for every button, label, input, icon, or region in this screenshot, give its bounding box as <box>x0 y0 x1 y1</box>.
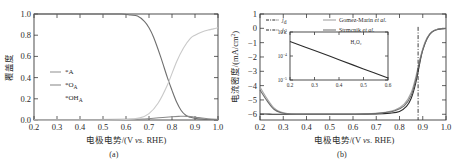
svg-text:0.8: 0.8 <box>167 122 178 132</box>
panel-b-caption: (b) <box>228 150 456 159</box>
svg-text:jd: jd <box>281 17 287 25</box>
svg-text:0.5: 0.5 <box>360 82 367 88</box>
panel-b-svg: 10−1−2−3−4−5−6 0.20.30.40.50.60.70.80.91… <box>228 0 457 166</box>
svg-text:0.9: 0.9 <box>190 122 201 132</box>
panel-a-curves <box>34 14 218 120</box>
svg-text:0.6: 0.6 <box>385 82 392 88</box>
panel-a-plot-frame <box>34 14 218 120</box>
svg-text:1.0: 1.0 <box>20 9 31 19</box>
svg-text:10−4: 10−4 <box>278 53 287 59</box>
svg-text:0.9: 0.9 <box>417 122 428 132</box>
inset-curve <box>290 42 388 79</box>
panel-b-polarization-plot: 10−1−2−3−4−5−6 0.20.30.40.50.60.70.80.91… <box>228 0 456 166</box>
panel-a-y-axis: 0.00.20.40.60.81.0 <box>20 9 218 125</box>
svg-text:−6: −6 <box>248 109 257 119</box>
svg-text:0.3: 0.3 <box>311 82 318 88</box>
svg-text:0.4: 0.4 <box>301 122 312 132</box>
svg-text:0.5: 0.5 <box>324 122 335 132</box>
svg-text:Gomez-Marin et al.: Gomez-Marin et al. <box>339 17 387 23</box>
svg-text:*A: *A <box>65 68 74 76</box>
svg-text:0.7: 0.7 <box>371 122 382 132</box>
svg-text:10−5: 10−5 <box>278 77 287 83</box>
panel-a-caption: (a) <box>0 150 228 159</box>
two-panel-figure: 0.00.20.40.60.81.0 0.20.30.40.50.60.70.8… <box>0 0 457 166</box>
svg-text:0.3: 0.3 <box>52 122 63 132</box>
svg-text:0.8: 0.8 <box>394 122 405 132</box>
svg-text:0.2: 0.2 <box>29 122 40 132</box>
svg-text:0.6: 0.6 <box>20 51 31 61</box>
panel-b-y-axis-label: 电流密度/(mA/cm2) <box>230 31 240 103</box>
svg-text:−1: −1 <box>248 38 257 48</box>
svg-text:0.2: 0.2 <box>20 94 31 104</box>
panel-a-legend: *A*OA*OHA <box>50 68 83 103</box>
panel-a-y-axis-label: 覆盖度 <box>4 54 14 81</box>
panel-b-x-axis-label: 电极电势/(V vs. RHE) <box>314 135 395 145</box>
svg-text:0.2: 0.2 <box>287 82 294 88</box>
panel-a-x-axis: 0.20.30.40.50.60.70.80.91.0 <box>29 14 224 132</box>
svg-text:0.7: 0.7 <box>144 122 155 132</box>
panel-b-inset-h2o2: 0.20.30.40.50.610−310−410−5 H₂O₂ <box>278 29 392 88</box>
svg-text:−3: −3 <box>248 66 257 76</box>
svg-text:−2: −2 <box>248 52 257 62</box>
svg-text:−4: −4 <box>248 81 258 91</box>
svg-text:0.3: 0.3 <box>278 122 289 132</box>
panel-a-coverage-plot: 0.00.20.40.60.81.0 0.20.30.40.50.60.70.8… <box>0 0 228 166</box>
svg-text:0.4: 0.4 <box>336 82 343 88</box>
svg-text:0.2: 0.2 <box>255 122 266 132</box>
svg-text:0.5: 0.5 <box>98 122 109 132</box>
panel-b-y-axis: 10−1−2−3−4−5−6 <box>248 9 446 119</box>
panel-a-svg: 0.00.20.40.60.81.0 0.20.30.40.50.60.70.8… <box>0 0 228 166</box>
svg-text:0.6: 0.6 <box>348 122 359 132</box>
svg-text:0: 0 <box>253 23 257 33</box>
svg-text:0.8: 0.8 <box>20 30 31 40</box>
svg-text:1.0: 1.0 <box>213 122 224 132</box>
svg-text:−5: −5 <box>248 95 257 105</box>
inset-annotation-h2o2: H₂O₂ <box>350 39 361 45</box>
svg-text:*OA: *OA <box>65 81 78 90</box>
panel-a-x-axis-label: 电极电势/(V vs. RHE) <box>86 135 167 145</box>
svg-text:*OHA: *OHA <box>65 94 83 103</box>
svg-text:0.6: 0.6 <box>121 122 132 132</box>
svg-text:1: 1 <box>253 9 257 19</box>
svg-text:0.4: 0.4 <box>75 122 86 132</box>
svg-text:1.0: 1.0 <box>441 122 452 132</box>
svg-text:0.4: 0.4 <box>20 73 31 83</box>
